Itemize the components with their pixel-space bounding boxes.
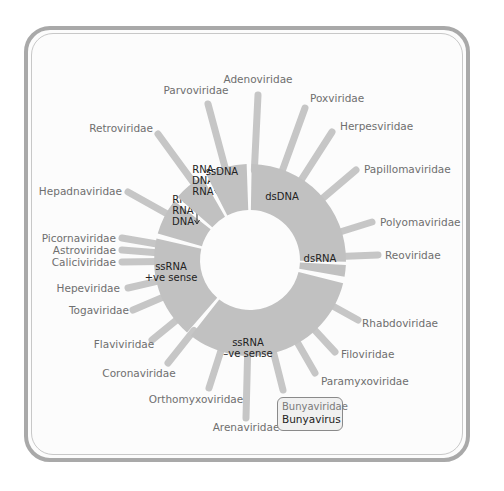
family-label-rhabdoviridae: Rhabdoviridae: [362, 317, 438, 329]
family-label-papillomaviridae: Papillomaviridae: [364, 163, 451, 175]
spike-papillomaviridae: [319, 170, 356, 202]
family-label-hepeviridae: Hepeviridae: [57, 282, 120, 294]
spike-poxviridae: [281, 108, 305, 175]
segment-label-dsdna: dsDNA: [265, 191, 299, 202]
highlight-family-label: Bunyaviridae: [282, 400, 338, 413]
segment-label-ssdna: ssDNA: [206, 166, 239, 177]
spike-paramyxoviridae: [295, 338, 315, 373]
spike-arenaviridae: [246, 350, 248, 418]
highlight-genus-label: Bunyavirus: [282, 413, 338, 426]
family-label-togaviridae: Togaviridae: [68, 304, 129, 316]
spike-orthomyxoviridae: [209, 346, 223, 388]
spike-hepadnaviridae: [128, 192, 171, 216]
segment-label-dsrna: dsRNA: [304, 253, 337, 264]
family-label-coronaviridae: Coronaviridae: [102, 367, 175, 379]
family-label-caliciviridae: Caliciviridae: [52, 256, 116, 268]
segment-ssrna-neg: [191, 272, 343, 356]
family-label-astroviridae: Astroviridae: [53, 244, 116, 256]
family-label-picornaviridae: Picornaviridae: [42, 232, 116, 244]
family-label-flaviviridae: Flaviviridae: [94, 338, 154, 350]
family-label-poxviridae: Poxviridae: [310, 92, 364, 104]
segment-dsdna: [251, 164, 346, 262]
spike-bunyaviridae: [272, 347, 283, 390]
spike-adenoviridae: [254, 95, 258, 170]
family-label-arenaviridae: Arenaviridae: [213, 421, 280, 433]
virus-classification-diagram: dsDNAdsRNAssRNA–ve sensessRNA+ve senseRN…: [0, 0, 504, 491]
family-label-hepadnaviridae: Hepadnaviridae: [39, 185, 122, 197]
family-label-polyomaviridae: Polyomaviridae: [380, 216, 461, 228]
family-label-herpesviridae: Herpesviridae: [340, 120, 413, 132]
genome-type-ring: dsDNAdsRNAssRNA–ve sensessRNA+ve senseRN…: [145, 164, 346, 360]
family-label-reoviridae: Reoviridae: [385, 249, 441, 261]
family-label-parvoviridae: Parvoviridae: [163, 84, 228, 96]
bunyavirus-highlight-box: Bunyaviridae Bunyavirus: [277, 397, 343, 431]
family-label-filoviridae: Filoviridae: [341, 348, 394, 360]
family-label-paramyxoviridae: Paramyxoviridae: [321, 375, 409, 387]
spike-coronaviridae: [168, 330, 194, 363]
family-label-adenoviridae: Adenoviridae: [223, 73, 292, 85]
family-label-orthomyxoviridae: Orthomyxoviridae: [149, 393, 243, 405]
family-label-retroviridae: Retroviridae: [89, 122, 153, 134]
spike-herpesviridae: [299, 132, 332, 184]
